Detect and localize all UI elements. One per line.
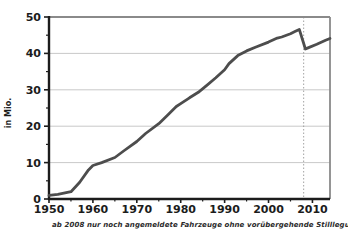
y-tick-label: 50 (26, 11, 42, 24)
plot-frame-layer (48, 16, 330, 200)
gridlines-layer (49, 53, 330, 162)
y-tick-label: 20 (26, 120, 42, 133)
data-series-layer (49, 29, 330, 195)
y-tick-label: 10 (26, 157, 42, 170)
chart-figure: 010203040501950196019701980199020002010 … (0, 0, 348, 240)
vehicle-stock-data-line (49, 29, 330, 195)
x-tick-label: 2000 (253, 203, 284, 216)
y-tick-label: 40 (26, 47, 42, 60)
x-tick-label: 1950 (34, 203, 65, 216)
axis-labels-layer: 010203040501950196019701980199020002010 (26, 11, 328, 216)
vehicle-stock-line-chart: 010203040501950196019701980199020002010 … (0, 0, 348, 240)
y-axis-title: in Mio. (4, 98, 13, 128)
x-tick-label: 2010 (297, 203, 328, 216)
x-tick-label: 1990 (209, 203, 240, 216)
x-tick-label: 1980 (165, 203, 196, 216)
x-tick-label: 1960 (78, 203, 109, 216)
y-tick-label: 30 (26, 84, 42, 97)
chart-footnote: ab 2008 nur noch angemeldete Fahrzeuge o… (52, 221, 348, 229)
x-tick-label: 1970 (122, 203, 153, 216)
